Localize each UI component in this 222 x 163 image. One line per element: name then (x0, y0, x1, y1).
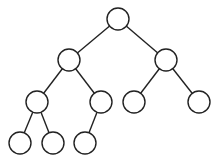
tree-node (74, 132, 96, 154)
tree-node (155, 49, 177, 71)
tree-nodes (9, 8, 210, 154)
binary-tree-diagram (0, 0, 222, 163)
tree-node (26, 91, 48, 113)
tree-node (42, 132, 64, 154)
tree-node (123, 91, 145, 113)
tree-node (58, 49, 80, 71)
tree-edges (20, 19, 199, 143)
tree-node (9, 132, 31, 154)
tree-node (188, 91, 210, 113)
tree-node (107, 8, 129, 30)
tree-node (90, 91, 112, 113)
